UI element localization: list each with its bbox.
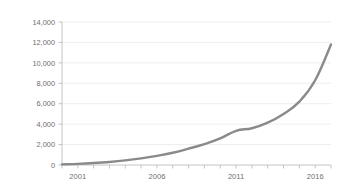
y-axis-tickmarks bbox=[59, 22, 63, 165]
x-tick-label: 2006 bbox=[148, 172, 165, 181]
x-axis-labels: 2001200620112016 bbox=[69, 172, 323, 181]
y-tick-label: 10,000 bbox=[32, 59, 55, 68]
y-axis-labels: 02,0004,0006,0008,00010,00012,00014,000 bbox=[32, 18, 55, 170]
x-tick-label: 2001 bbox=[69, 172, 86, 181]
y-tick-label: 12,000 bbox=[32, 38, 55, 47]
y-tick-label: 14,000 bbox=[32, 18, 55, 27]
y-tick-label: 4,000 bbox=[37, 120, 56, 129]
y-tick-label: 0 bbox=[51, 161, 55, 170]
y-tick-label: 6,000 bbox=[37, 99, 56, 108]
chart-plot-area: 02,0004,0006,0008,00010,00012,00014,000 … bbox=[0, 0, 340, 193]
x-tick-label: 2011 bbox=[228, 172, 244, 181]
x-axis-tickmarks bbox=[62, 165, 331, 169]
y-tick-label: 2,000 bbox=[37, 140, 56, 149]
x-tick-label: 2016 bbox=[307, 172, 324, 181]
y-tick-label: 8,000 bbox=[37, 79, 56, 88]
gridlines-group bbox=[62, 22, 331, 145]
chart-container: 02,0004,0006,0008,00010,00012,00014,000 … bbox=[0, 0, 340, 193]
